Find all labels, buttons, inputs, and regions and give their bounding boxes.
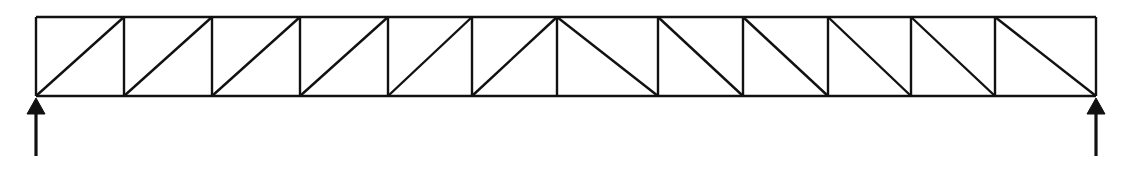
truss-diagram <box>0 0 1126 169</box>
vertical-members <box>36 17 1096 96</box>
diagonal-member-11 <box>995 17 1096 96</box>
diagonal-member-4 <box>388 17 472 96</box>
diagonal-member-0 <box>36 17 124 96</box>
diagonal-member-9 <box>828 17 911 96</box>
right-support-arrow-icon <box>1087 98 1105 114</box>
diagonal-member-3 <box>300 17 388 96</box>
left-support <box>27 98 45 156</box>
diagonal-member-1 <box>124 17 212 96</box>
right-support <box>1087 98 1105 156</box>
diagonal-members <box>36 17 1096 96</box>
diagonal-member-6 <box>557 17 658 96</box>
diagonal-member-10 <box>911 17 995 96</box>
diagonal-member-2 <box>212 17 300 96</box>
diagonal-member-8 <box>743 17 828 96</box>
diagonal-member-7 <box>658 17 743 96</box>
support-reactions <box>27 98 1105 156</box>
truss-chords <box>36 17 1096 96</box>
truss-figure <box>0 0 1126 169</box>
diagonal-member-5 <box>472 17 557 96</box>
left-support-arrow-icon <box>27 98 45 114</box>
